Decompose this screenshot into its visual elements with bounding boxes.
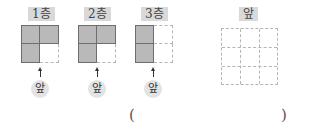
floor-1-front-badge: 앞 xyxy=(31,80,49,98)
floor-2-arrow-shaft xyxy=(97,70,98,77)
floor-2-cell-3 xyxy=(78,43,97,63)
floor-3-cell-1 xyxy=(135,25,154,44)
floor-1-label: 1층 xyxy=(28,7,55,21)
floor-2-label: 2층 xyxy=(84,7,111,21)
answer-grid-hline-1 xyxy=(222,47,277,48)
floor-1-arrow-shaft xyxy=(40,70,41,77)
floor-3-label: 3층 xyxy=(141,7,168,21)
floor-3-cell-4 xyxy=(154,44,173,63)
floor-2-cell-1 xyxy=(78,25,97,44)
answer-grid-vline-1 xyxy=(240,29,241,84)
answer-grid-hline-2 xyxy=(222,66,277,67)
floor-1-grid xyxy=(21,25,59,63)
floor-2-cell-4 xyxy=(97,44,116,63)
floor-3-arrow-shaft xyxy=(153,70,154,77)
floor-2-grid xyxy=(78,25,116,63)
answer-grid-vline-2 xyxy=(259,29,260,84)
answer-grid[interactable] xyxy=(221,28,278,85)
floor-3-cell-2 xyxy=(154,25,173,44)
floor-1-cell-3 xyxy=(21,43,40,63)
answer-input[interactable] xyxy=(140,106,275,124)
answer-open-paren: ( xyxy=(129,106,135,124)
floor-3-cell-3 xyxy=(135,43,154,63)
floor-3-front-badge: 앞 xyxy=(144,80,162,98)
floor-1-cell-4 xyxy=(40,44,59,63)
floor-3-grid xyxy=(135,25,173,63)
answer-close-paren: ) xyxy=(281,106,287,124)
floor-2-cell-2 xyxy=(96,25,116,44)
floor-1-cell-1 xyxy=(21,25,40,44)
floor-2-front-badge: 앞 xyxy=(88,80,106,98)
answer-grid-front-label: 앞 xyxy=(239,7,258,21)
floor-1-cell-2 xyxy=(39,25,59,44)
